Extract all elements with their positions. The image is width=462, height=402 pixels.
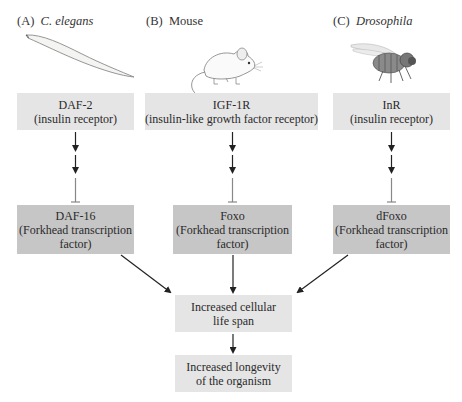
arrow-dfoxo-to-lifespan [298, 255, 348, 292]
arrow-daf16-to-lifespan [121, 255, 170, 292]
connector-layer [0, 0, 462, 402]
